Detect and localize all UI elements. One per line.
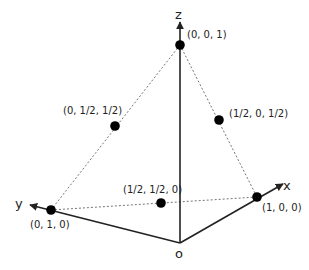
label-yz-mid: (0, 1/2, 1/2) — [63, 105, 122, 116]
simplex-diagram: z y x o (0, 0, 1) (0, 1, 0) (1, 0, 0) (0… — [0, 0, 309, 270]
label-x-vertex: (1, 0, 0) — [262, 202, 302, 213]
label-xy-mid: (1/2, 1/2, 0) — [123, 184, 182, 195]
origin-label: o — [175, 246, 183, 261]
x-axis-label: x — [283, 178, 291, 193]
edge-y-x — [51, 197, 257, 210]
label-y-vertex: (0, 1, 0) — [30, 219, 70, 230]
point-xy-mid — [156, 198, 166, 208]
point-x-vertex — [252, 192, 262, 202]
point-xz-mid — [214, 115, 224, 125]
point-z-vertex — [175, 40, 185, 50]
label-z-vertex: (0, 0, 1) — [187, 29, 227, 40]
x-axis — [180, 184, 283, 243]
z-axis-label: z — [175, 7, 182, 22]
y-axis-label: y — [15, 196, 23, 211]
label-xz-mid: (1/2, 0, 1/2) — [229, 108, 288, 119]
point-yz-mid — [110, 121, 120, 131]
point-y-vertex — [46, 205, 56, 215]
axes — [30, 22, 283, 243]
